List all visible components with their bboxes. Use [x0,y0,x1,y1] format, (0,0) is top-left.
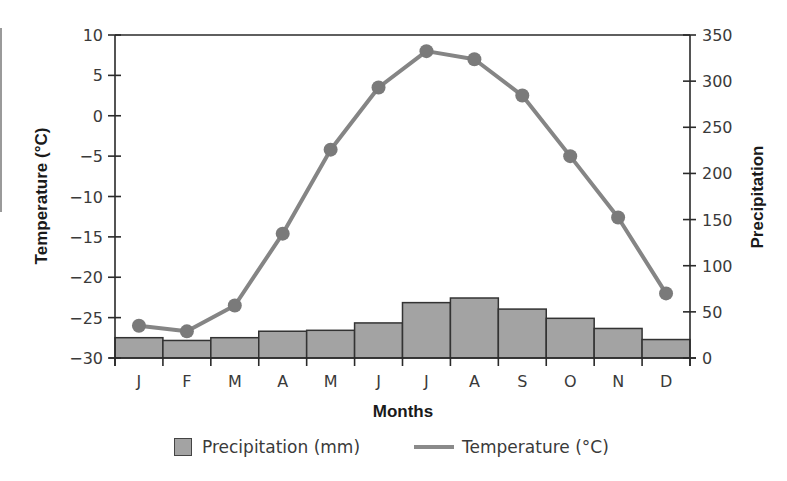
temperature-line [132,44,673,338]
precipitation-bar [115,338,163,358]
x-axis-title: Months [373,402,433,421]
y-right-tick-label: 350 [702,26,733,45]
temperature-point [228,299,242,313]
x-month-label: S [517,372,527,391]
x-month-label: J [375,372,381,391]
y-left-tick-label: −20 [69,268,103,287]
legend-temperature-label: Temperature (°C) [462,437,609,457]
y-left-tick-label: 5 [93,66,103,85]
precipitation-bar [259,331,307,358]
precipitation-bar [642,340,690,358]
temperature-point [563,149,577,163]
x-month-label: J [423,372,429,391]
temperature-point [132,319,146,333]
precipitation-bar [546,318,594,358]
legend-precipitation-label: Precipitation (mm) [202,437,360,457]
temperature-point [515,89,529,103]
x-month-label: D [660,372,672,391]
x-month-label: F [182,372,191,391]
temperature-point [611,210,625,224]
y-left-tick-label: 0 [93,107,103,126]
y-right-tick-label: 200 [702,164,733,183]
legend: Precipitation (mm) Temperature (°C) [174,436,609,458]
climate-chart: 1050−5−10−15−20−25−303503002502001501005… [0,0,787,481]
x-month-label: A [469,372,480,391]
y-left-tick-label: −25 [69,309,103,328]
temperature-point [659,286,673,300]
y-axis-right-title: Precipitation [748,146,767,249]
y-right-tick-label: 100 [702,257,733,276]
y-right-tick-label: 250 [702,118,733,137]
x-month-label: A [277,372,288,391]
temperature-point [419,44,433,58]
x-month-label: J [136,372,142,391]
y-right-tick-label: 50 [702,303,722,322]
y-left-tick-label: 10 [83,26,103,45]
precipitation-bar [307,330,355,358]
temperature-point [324,143,338,157]
precipitation-bars [115,298,690,358]
precipitation-bar [403,303,451,358]
y-left-tick-label: −15 [69,228,103,247]
y-right-tick-label: 300 [702,72,733,91]
y-left-tick-label: −10 [69,188,103,207]
precipitation-bar [163,340,211,358]
precipitation-bar [594,328,642,358]
temperature-point [467,52,481,66]
y-left-tick-label: −5 [79,147,103,166]
x-month-label: O [564,372,577,391]
temperature-point [276,227,290,241]
temperature-point [180,324,194,338]
precipitation-bar [211,338,259,358]
temperature-point [372,80,386,94]
precipitation-bar [450,298,498,358]
y-axis-left-title: Temperature (°C) [32,128,51,265]
temperature-line-swatch-icon [414,445,454,449]
y-left-tick-label: −30 [69,349,103,368]
precipitation-bar [498,309,546,358]
y-right-tick-label: 150 [702,211,733,230]
x-month-label: M [324,372,338,391]
x-month-label: M [228,372,242,391]
precipitation-bar [355,323,403,358]
precipitation-swatch-icon [174,438,192,456]
x-month-label: N [612,372,624,391]
y-right-tick-label: 0 [702,349,712,368]
